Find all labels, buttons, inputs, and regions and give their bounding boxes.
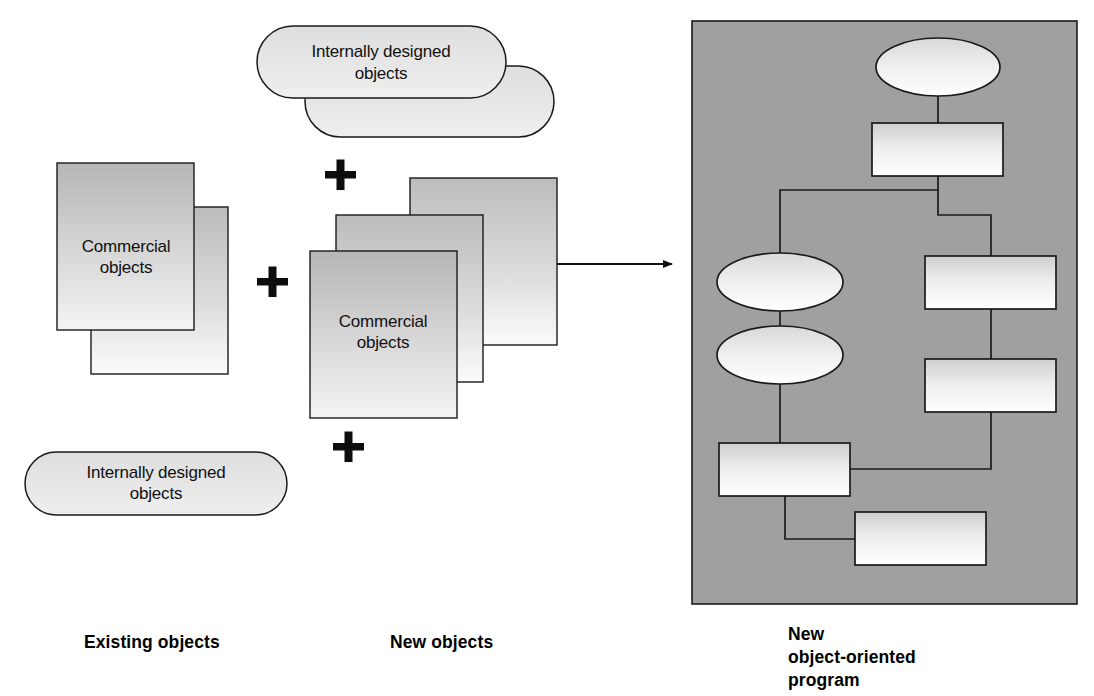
commercial-objects-label-line2: objects (100, 258, 152, 277)
caption-new-oo-program-line2: object-oriented (788, 647, 916, 667)
group-new-objects: Internally designed objects Commercial o… (257, 26, 557, 652)
flow-rect-5 (855, 512, 986, 565)
internally-designed-objects-label-line2: objects (130, 484, 182, 503)
commercial-objects-label-line1: Commercial (82, 237, 171, 256)
object-composition-diagram: Commercial objects Internally designed o… (0, 0, 1094, 696)
new-commercial-objects-label-line2: objects (357, 333, 409, 352)
plus-sign-between (257, 267, 288, 298)
plus-sign-top-new (325, 160, 356, 191)
flow-rect-4 (719, 443, 850, 496)
caption-new-oo-program-line3: program (788, 670, 860, 690)
internally-designed-objects-front-pill (257, 26, 506, 98)
diagram-canvas: Commercial objects Internally designed o… (0, 0, 1094, 696)
flow-ellipse-1 (876, 38, 1000, 96)
flow-rect-2 (925, 256, 1056, 309)
internally-designed-objects-label-line1: Internally designed (87, 463, 226, 482)
flow-rect-1 (872, 123, 1003, 176)
group-new-oo-program: New object-oriented program (692, 21, 1077, 690)
flow-ellipse-2 (717, 253, 843, 311)
plus-sign-bottom-new (333, 432, 364, 463)
caption-new-objects: New objects (390, 632, 493, 652)
flow-rect-3 (925, 359, 1056, 412)
caption-new-oo-program-line1: New (788, 624, 825, 644)
new-internally-designed-label-line1: Internally designed (312, 42, 451, 61)
group-existing-objects: Commercial objects Internally designed o… (25, 163, 287, 652)
flow-ellipse-3 (717, 326, 843, 384)
new-internally-designed-label-line2: objects (355, 64, 407, 83)
caption-existing-objects: Existing objects (84, 632, 220, 652)
new-commercial-objects-label-line1: Commercial (339, 312, 428, 331)
